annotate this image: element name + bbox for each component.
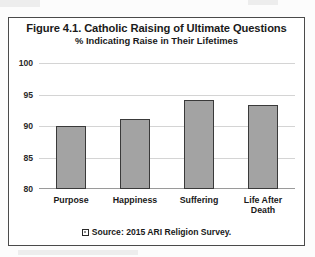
bar-group-suffering: Suffering [167, 63, 231, 189]
bar-life-after-death[interactable] [248, 105, 278, 189]
bar-purpose[interactable] [56, 126, 86, 189]
category-label-life-after-death: Life After Death [244, 195, 282, 215]
scan-artifact-top-right [248, 0, 278, 5]
chart-legend: Source: 2015 ARI Religion Survey. [9, 227, 304, 237]
category-label-purpose: Purpose [53, 195, 88, 205]
bar-group-purpose: Purpose [39, 63, 103, 189]
chart-container: Figure 4.1. Catholic Raising of Ultimate… [8, 17, 305, 246]
legend-label-source: Source: 2015 ARI Religion Survey. [92, 227, 231, 237]
scan-artifact-bottom [18, 250, 138, 255]
bar-group-happiness: Happiness [103, 63, 167, 189]
ytick-label-95: 95 [23, 90, 33, 100]
plot-area: 100 95 90 85 80 Purpose Happiness Suff [39, 63, 295, 189]
ytick-label-100: 100 [19, 58, 33, 68]
ytick-label-85: 85 [23, 153, 33, 163]
chart-subtitle: % Indicating Raise in Their Lifetimes [9, 35, 304, 46]
bar-suffering[interactable] [184, 100, 214, 189]
ytick-label-80: 80 [23, 184, 33, 194]
category-label-line: Life After [244, 195, 282, 205]
category-label-line: Suffering [180, 195, 219, 205]
bar-group-life-after-death: Life After Death [231, 63, 295, 189]
category-label-happiness: Happiness [113, 195, 158, 205]
legend-swatch-icon [82, 229, 89, 236]
bars-layer: Purpose Happiness Suffering Life After [39, 63, 295, 189]
scan-artifact-top-left [0, 0, 40, 7]
ytick-label-90: 90 [23, 121, 33, 131]
category-label-line: Purpose [53, 195, 88, 205]
chart-title-block: Figure 4.1. Catholic Raising of Ultimate… [9, 22, 304, 46]
bar-happiness[interactable] [120, 119, 150, 189]
category-label-line: Death [244, 205, 282, 215]
category-label-line: Happiness [113, 195, 158, 205]
chart-title: Figure 4.1. Catholic Raising of Ultimate… [9, 22, 304, 34]
category-label-suffering: Suffering [180, 195, 219, 205]
